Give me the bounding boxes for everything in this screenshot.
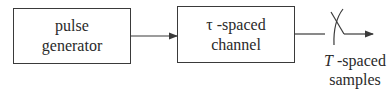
- output-label: T -spaced samples: [320, 51, 389, 89]
- T-symbol: T: [324, 52, 333, 69]
- channel-line1: τ -spaced: [206, 15, 265, 35]
- pulse-generator-line2: generator: [42, 36, 102, 56]
- pulse-generator-block: pulse generator: [13, 8, 131, 64]
- output-label-line2: samples: [320, 70, 389, 89]
- channel-block: τ -spaced channel: [177, 6, 295, 63]
- sampler-switch-icon: [331, 9, 344, 45]
- pulse-generator-line1: pulse: [55, 16, 89, 36]
- channel-line2: channel: [211, 35, 261, 55]
- output-label-line1: T -spaced: [320, 51, 389, 70]
